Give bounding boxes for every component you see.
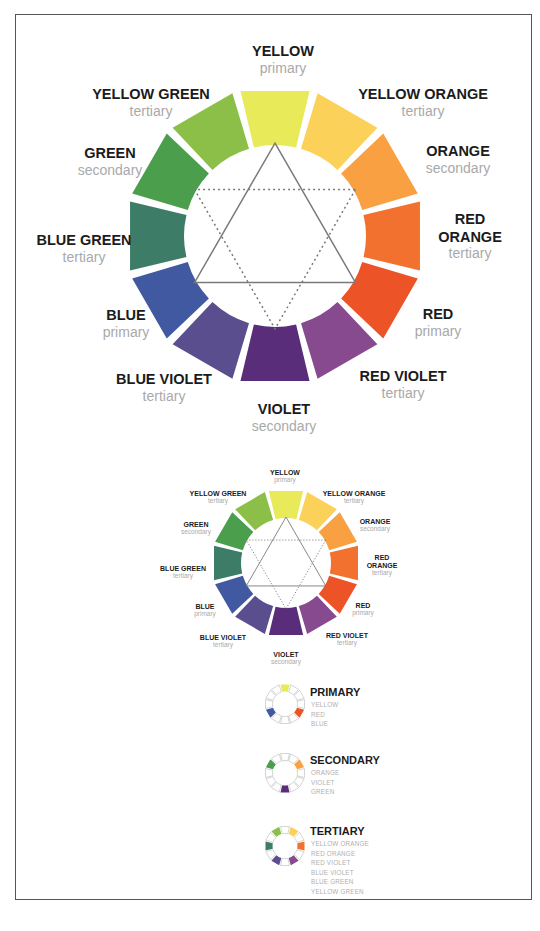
small-label-red: RED primary [352, 602, 374, 617]
label-yellow-green: YELLOW GREEN tertiary [92, 87, 210, 118]
wheel-segment-red-orange [364, 201, 420, 270]
small-label-yellow-green: YELLOW GREEN tertiary [190, 490, 247, 505]
key-wheel-tertiary [266, 827, 305, 866]
small-label-blue-green: BLUE GREEN tertiary [160, 565, 206, 580]
small-label-green: GREEN secondary [181, 521, 211, 536]
wheel-segment-yellow [240, 91, 309, 147]
small-label-red-orange: RED ORANGE tertiary [367, 554, 398, 577]
key-title-secondary: SECONDARY [310, 754, 380, 766]
label-violet: VIOLET secondary [252, 402, 317, 433]
wheel-segment-blue-green [130, 201, 186, 270]
label-blue: BLUE primary [103, 308, 150, 339]
key-list-primary: YELLOW RED BLUE [311, 700, 338, 729]
small-label-red-violet: RED VIOLET tertiary [326, 632, 368, 647]
wheel-segment-violet [281, 716, 290, 723]
wheel-segment-blue-green [266, 769, 273, 778]
small-label-orange: ORANGE secondary [360, 518, 391, 533]
wheel-segment-violet [281, 785, 290, 792]
small-label-yellow-orange: YELLOW ORANGE tertiary [323, 490, 386, 505]
key-title-tertiary: TERTIARY [310, 825, 365, 837]
small-label-blue-violet: BLUE VIOLET tertiary [200, 634, 246, 649]
color-wheel-graphics [0, 0, 540, 931]
wheel-segment-blue-green [214, 546, 242, 580]
wheel-segment-red-orange [297, 769, 304, 778]
wheel-segment-red-orange [330, 546, 358, 580]
label-yellow: YELLOW primary [252, 44, 314, 75]
wheel-segment-violet [269, 607, 303, 635]
small-label-blue: BLUE primary [194, 603, 216, 618]
small-label-violet: VIOLET secondary [271, 651, 301, 666]
wheel-segment-blue-green [266, 842, 273, 851]
key-list-secondary: ORANGE VIOLET GREEN [311, 768, 340, 797]
key-title-primary: PRIMARY [310, 686, 360, 698]
wheel-segment-yellow [281, 827, 290, 834]
label-red: RED primary [415, 307, 462, 338]
label-red-orange: RED ORANGE tertiary [438, 212, 502, 260]
label-blue-violet: BLUE VIOLET tertiary [116, 372, 212, 403]
key-wheel-primary [266, 685, 305, 724]
wheel-segment-yellow [281, 754, 290, 761]
label-yellow-orange: YELLOW ORANGE tertiary [358, 87, 488, 118]
label-blue-green: BLUE GREEN tertiary [36, 233, 131, 264]
wheel-segment-red-orange [297, 842, 304, 851]
label-red-violet: RED VIOLET tertiary [359, 369, 446, 400]
wheel-segment-yellow [269, 491, 303, 519]
small-label-yellow: YELLOW primary [270, 469, 300, 484]
wheel-segment-blue-green [266, 700, 273, 709]
label-green: GREEN secondary [78, 146, 143, 177]
wheel-segment-red-orange [297, 700, 304, 709]
small-color-wheel [214, 491, 358, 635]
wheel-segment-yellow [281, 685, 290, 692]
key-wheel-secondary [266, 754, 305, 793]
label-orange: ORANGE secondary [426, 144, 491, 175]
large-color-wheel [130, 91, 420, 381]
key-list-tertiary: YELLOW ORANGE RED ORANGE RED VIOLET BLUE… [311, 839, 369, 897]
wheel-segment-violet [240, 325, 309, 381]
wheel-segment-violet [281, 858, 290, 865]
